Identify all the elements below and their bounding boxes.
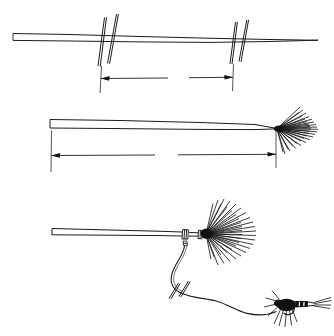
extension-line-left — [51, 131, 52, 173]
fly-tying-figure: Fly tying hackle preparation and finishe… — [0, 0, 334, 336]
figure-canvas — [0, 0, 334, 336]
figure-background — [0, 0, 334, 336]
hackle-fan-core — [274, 126, 284, 132]
hackle-fan-core — [201, 228, 213, 238]
